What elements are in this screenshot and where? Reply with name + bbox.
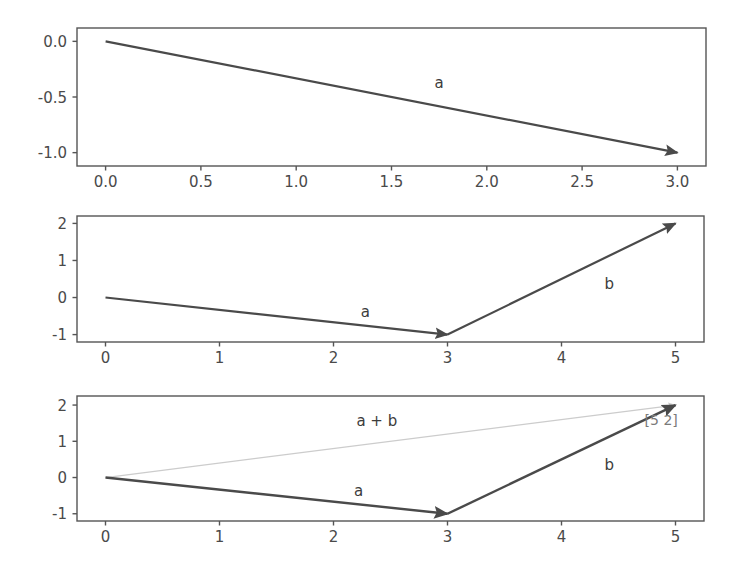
x-tick-label: 1 <box>215 349 225 367</box>
x-tick-label: 3.0 <box>665 173 689 191</box>
x-tick-label: 3 <box>443 349 453 367</box>
vector-label-b: b <box>605 275 615 293</box>
x-tick-label: 2.5 <box>570 173 594 191</box>
x-tick-label: 2 <box>329 528 339 546</box>
y-tick-label: -1 <box>52 326 67 344</box>
y-tick-label: -1.0 <box>38 144 67 162</box>
x-tick-label: 0 <box>101 349 111 367</box>
y-tick-label: 2 <box>57 397 67 415</box>
x-tick-label: 5 <box>671 528 681 546</box>
x-tick-label: 4 <box>557 349 567 367</box>
vector-a <box>106 298 448 335</box>
subplot-2: 012345210-1ab <box>0 196 740 376</box>
x-tick-label: 2.0 <box>475 173 499 191</box>
vector-label-a: a <box>354 482 363 500</box>
figure-canvas: 0.00.51.01.52.02.53.00.0-0.5-1.0a0123452… <box>0 0 740 572</box>
y-tick-label: -0.5 <box>38 89 67 107</box>
x-tick-label: 5 <box>671 349 681 367</box>
vector-a <box>106 478 448 514</box>
y-tick-label: 0 <box>57 289 67 307</box>
x-tick-label: 3 <box>443 528 453 546</box>
vector-label-a: a <box>435 74 444 92</box>
vector-b <box>448 405 676 514</box>
vector-label-a: a <box>361 303 370 321</box>
annotation-coordinate: [5 2] <box>645 412 678 428</box>
vector-label-b: b <box>605 456 615 474</box>
x-tick-label: 0.0 <box>94 173 118 191</box>
x-tick-label: 0 <box>101 528 111 546</box>
vector-a <box>106 41 678 152</box>
y-tick-label: 0 <box>57 469 67 487</box>
x-tick-label: 1 <box>215 528 225 546</box>
subplot-3: 012345210-1aba + b[5 2] <box>0 376 740 572</box>
y-tick-label: -1 <box>52 505 67 523</box>
vector-b <box>448 223 676 334</box>
x-tick-label: 1.0 <box>284 173 308 191</box>
subplot-1: 0.00.51.01.52.02.53.00.0-0.5-1.0a <box>0 0 740 196</box>
y-tick-label: 0.0 <box>43 33 67 51</box>
y-tick-label: 1 <box>57 252 67 270</box>
x-tick-label: 4 <box>557 528 567 546</box>
x-tick-label: 2 <box>329 349 339 367</box>
x-tick-label: 1.5 <box>380 173 404 191</box>
vector-label-a_plus_b: a + b <box>356 412 397 430</box>
x-tick-label: 0.5 <box>189 173 213 191</box>
y-tick-label: 1 <box>57 433 67 451</box>
y-tick-label: 2 <box>57 215 67 233</box>
